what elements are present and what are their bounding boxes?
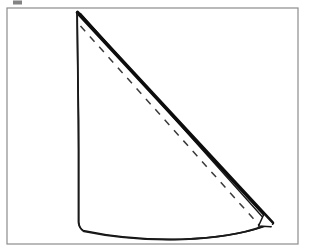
figure-page <box>0 0 314 249</box>
figure-canvas <box>0 0 314 249</box>
cropped-text-fragment <box>13 1 22 5</box>
